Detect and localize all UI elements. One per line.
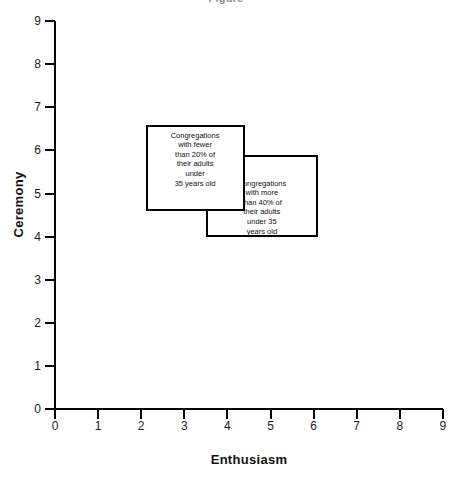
region-label-low-youth: Congregations with fewer than 20% of the…	[148, 131, 243, 189]
x-tick-mark	[97, 409, 99, 419]
y-tick-mark	[45, 193, 55, 195]
x-tick-mark	[399, 409, 401, 419]
y-axis-line	[54, 21, 56, 410]
x-tick-label-wrap: 3	[169, 420, 199, 434]
x-tick-label-wrap: 5	[256, 420, 286, 434]
x-tick-label-wrap: 0	[40, 420, 70, 434]
y-tick-label: 0	[0, 403, 41, 415]
x-tick-mark	[54, 409, 56, 419]
x-tick-mark	[356, 409, 358, 419]
x-tick-label: 4	[212, 420, 242, 432]
x-tick-label: 3	[169, 420, 199, 432]
x-tick-label: 7	[342, 420, 372, 432]
x-tick-label: 8	[385, 420, 415, 432]
y-tick-label-wrap: 8	[0, 58, 41, 70]
x-tick-mark	[226, 409, 228, 419]
x-tick-label: 6	[299, 420, 329, 432]
x-tick-label: 1	[83, 420, 113, 432]
x-tick-label: 2	[126, 420, 156, 432]
x-tick-label-wrap: 1	[83, 420, 113, 434]
y-tick-mark	[45, 279, 55, 281]
y-tick-label-wrap: 0	[0, 403, 41, 415]
y-tick-label: 1	[0, 360, 41, 372]
x-tick-label-wrap: 4	[212, 420, 242, 434]
y-tick-label: 3	[0, 274, 41, 286]
y-tick-label: 7	[0, 101, 41, 113]
x-tick-label-wrap: 7	[342, 420, 372, 434]
y-tick-mark	[45, 63, 55, 65]
x-tick-label-wrap: 2	[126, 420, 156, 434]
y-tick-mark	[45, 149, 55, 151]
y-tick-label-wrap: 9	[0, 15, 41, 27]
x-tick-label-wrap: 8	[385, 420, 415, 434]
x-axis-title: Enthusiasm	[54, 452, 444, 467]
y-tick-mark	[45, 365, 55, 367]
y-tick-label: 9	[0, 15, 41, 27]
chart-title-cropped: Figure	[0, 0, 452, 5]
y-tick-label-wrap: 2	[0, 317, 41, 329]
x-tick-label-wrap: 6	[299, 420, 329, 434]
y-tick-mark	[45, 322, 55, 324]
y-tick-mark	[45, 20, 55, 22]
region-box-low-youth: Congregations with fewer than 20% of the…	[146, 125, 245, 211]
x-tick-label: 9	[428, 420, 452, 432]
x-tick-mark	[270, 409, 272, 419]
y-axis-title: Ceremony	[11, 145, 26, 265]
x-tick-mark	[442, 409, 444, 419]
x-tick-mark	[183, 409, 185, 419]
y-tick-mark	[45, 236, 55, 238]
y-tick-label: 2	[0, 317, 41, 329]
x-axis-line	[54, 408, 443, 410]
y-tick-mark	[45, 106, 55, 108]
x-tick-label: 5	[256, 420, 286, 432]
x-tick-label: 0	[40, 420, 70, 432]
y-tick-label-wrap: 1	[0, 360, 41, 372]
x-tick-mark	[140, 409, 142, 419]
y-tick-label-wrap: 3	[0, 274, 41, 286]
y-tick-label-wrap: 7	[0, 101, 41, 113]
x-tick-mark	[313, 409, 315, 419]
chart-container: Figure 0123456789 0123456789 Ceremony En…	[0, 0, 452, 480]
y-tick-label: 8	[0, 58, 41, 70]
x-tick-label-wrap: 9	[428, 420, 452, 434]
